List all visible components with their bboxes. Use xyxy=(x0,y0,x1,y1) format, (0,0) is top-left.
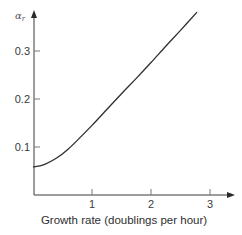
y-axis-arrow-icon xyxy=(31,10,37,18)
chart: 0.1 0.2 0.3 1 2 3 αr Growth rate (doubli… xyxy=(0,0,242,235)
y-tick-label: 0.3 xyxy=(15,45,30,57)
x-tick-label: 2 xyxy=(148,198,154,210)
x-tick-label: 1 xyxy=(89,198,95,210)
x-axis-label: Growth rate (doublings per hour) xyxy=(41,214,207,226)
y-tick-label: 0.2 xyxy=(15,93,30,105)
x-tick-label: 3 xyxy=(207,198,213,210)
data-line xyxy=(33,12,197,167)
x-axis-arrow-icon xyxy=(227,192,235,198)
y-tick-label: 0.1 xyxy=(15,141,30,153)
y-axis-label: αr xyxy=(15,10,26,23)
